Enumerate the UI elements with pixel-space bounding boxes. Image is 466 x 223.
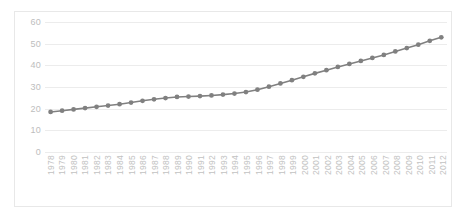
plot-area: 0102030405060 19781979198019811982198319…	[14, 11, 452, 207]
x-axis-tick-label: 1979	[58, 155, 67, 175]
x-axis-tick-label: 1995	[243, 155, 252, 175]
line-chart: 0102030405060 19781979198019811982198319…	[0, 0, 466, 223]
x-axis-tick-label: 1997	[266, 155, 275, 175]
x-axis-tick-label: 2010	[416, 155, 425, 175]
x-axis-tick-label: 1990	[185, 155, 194, 175]
x-axis-tick-label: 2006	[370, 155, 379, 175]
x-axis-tick-label: 1988	[162, 155, 171, 175]
x-axis-tick-label: 1993	[220, 155, 229, 175]
x-axis-tick-label: 1994	[231, 155, 240, 175]
x-axis-tick-label: 2009	[405, 155, 414, 175]
x-axis-tick-label: 1980	[70, 155, 79, 175]
x-axis-tick-label: 1986	[139, 155, 148, 175]
x-axis-tick-label: 1991	[197, 155, 206, 175]
x-axis-tick-label: 2007	[382, 155, 391, 175]
x-axis-tick-label: 2004	[347, 155, 356, 175]
x-axis-tick-label: 1985	[128, 155, 137, 175]
x-axis-tick-label: 2012	[439, 155, 448, 175]
x-axis-tick-label: 1992	[208, 155, 217, 175]
x-axis-tick-label: 2000	[301, 155, 310, 175]
x-axis-tick-label: 2005	[358, 155, 367, 175]
x-axis-tick-label: 1999	[289, 155, 298, 175]
x-axis-tick-label: 2003	[335, 155, 344, 175]
x-axis-tick-label: 1989	[174, 155, 183, 175]
x-axis-tick-label: 1998	[278, 155, 287, 175]
x-axis-tick-label: 1996	[255, 155, 264, 175]
x-axis-tick-label: 2001	[312, 155, 321, 175]
x-axis-tick-label: 1987	[151, 155, 160, 175]
x-axis: 1978197919801981198219831984198519861987…	[45, 12, 447, 206]
x-axis-tick-label: 1981	[81, 155, 90, 175]
x-axis-tick-label: 1984	[116, 155, 125, 175]
x-axis-tick-label: 2011	[428, 155, 437, 174]
x-axis-tick-label: 1978	[47, 155, 56, 175]
x-axis-tick-label: 2002	[324, 155, 333, 175]
x-axis-tick-label: 2008	[393, 155, 402, 175]
x-axis-tick-label: 1983	[104, 155, 113, 175]
x-axis-tick-label: 1982	[93, 155, 102, 175]
